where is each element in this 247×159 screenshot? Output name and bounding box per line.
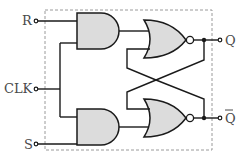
input-s-terminal	[34, 142, 38, 146]
output-q-label: Q	[225, 33, 236, 48]
and-gate-top	[77, 13, 119, 49]
output-q-terminal	[218, 38, 222, 42]
sr-flip-flop-diagram: R CLK S Q Q	[0, 0, 247, 159]
nor-top-inversion-bubble	[186, 36, 193, 43]
input-r-label: R	[22, 13, 33, 28]
and-gate-bottom	[77, 109, 119, 145]
output-qbar-label: Q	[225, 111, 236, 126]
nor-gate-bottom	[144, 99, 186, 137]
input-r-terminal	[34, 19, 38, 23]
input-wires	[38, 21, 77, 144]
output-qbar-terminal	[218, 116, 222, 120]
nor-gate-top	[144, 20, 186, 58]
input-clk-terminal	[34, 87, 38, 91]
nor-bottom-inversion-bubble	[186, 114, 193, 121]
input-clk-label: CLK	[4, 81, 33, 96]
input-s-label: S	[24, 137, 33, 152]
